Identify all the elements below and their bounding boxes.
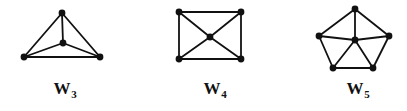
graph-rim-vertex: [238, 56, 245, 63]
graph-edge: [179, 37, 210, 59]
graph-vertices: [316, 6, 393, 72]
graph-label-subscript: 3: [71, 88, 77, 100]
graph-edge: [210, 37, 241, 59]
graph-label-w3: W3: [54, 80, 77, 97]
graph-edge: [355, 9, 389, 36]
wheel-graph-w4: [176, 9, 245, 63]
graph-edge: [210, 12, 241, 37]
graph-rim-vertex: [386, 33, 393, 40]
graph-edges: [24, 13, 100, 57]
graph-rim-vertex: [330, 65, 337, 72]
graph-rim-vertex: [370, 65, 377, 72]
graph-label-w5: W5: [347, 80, 370, 97]
graph-rim-vertex: [21, 54, 28, 61]
graph-edge: [355, 40, 373, 68]
graph-edge: [319, 9, 355, 36]
wheel-graphs-figure: W3W4W5: [0, 0, 407, 111]
graph-rim-vertex: [316, 33, 323, 40]
graph-label-letter: W: [54, 79, 71, 98]
graph-rim-vertex: [59, 10, 66, 17]
graph-label-letter: W: [347, 79, 364, 98]
graph-rim-vertex: [352, 6, 359, 13]
graph-hub-vertex: [60, 40, 67, 47]
graph-rim-vertex: [97, 54, 104, 61]
graph-rim-vertex: [176, 9, 183, 16]
graph-hub-vertex: [352, 37, 359, 44]
graph-edge: [319, 36, 333, 68]
wheel-graph-w5: [316, 6, 393, 72]
graph-edge: [179, 12, 210, 37]
graph-edge: [333, 40, 355, 68]
graph-label-w4: W4: [204, 80, 227, 97]
graph-edge: [319, 36, 355, 40]
graph-label-subscript: 5: [364, 88, 370, 100]
graph-edge: [373, 36, 389, 68]
graph-rim-vertex: [238, 9, 245, 16]
graph-rim-vertex: [176, 56, 183, 63]
graph-label-letter: W: [204, 79, 221, 98]
graph-edge: [62, 13, 63, 43]
graph-hub-vertex: [207, 34, 214, 41]
graph-label-subscript: 4: [221, 88, 227, 100]
wheel-graph-w3: [21, 10, 104, 61]
graph-edge: [355, 36, 389, 40]
